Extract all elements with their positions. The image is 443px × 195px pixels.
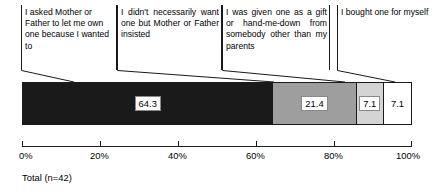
- x-axis-tick-label-100: 100%: [396, 150, 420, 162]
- stacked-bar-chart: I asked Mother or Father to let me own o…: [0, 0, 443, 195]
- callout-label-2: I didn't necessarily want one but Mother…: [121, 7, 219, 41]
- x-axis-tick-100: [411, 141, 412, 146]
- bar-track: 64.3 21.4 7.1 7.1: [22, 82, 412, 125]
- x-axis-tick-60: [256, 141, 257, 146]
- bar-segment-4[interactable]: 7.1: [383, 83, 411, 124]
- x-axis-tick-80: [334, 141, 335, 146]
- x-axis-tick-label-0: 0%: [19, 150, 33, 162]
- bar-segment-value-1: 64.3: [135, 96, 161, 111]
- bar-segment-1[interactable]: 64.3: [23, 83, 272, 124]
- callout-box-2: I didn't necessarily want one but Mother…: [117, 5, 222, 70]
- bar-segment-value-2: 21.4: [301, 96, 327, 111]
- callout-label-1: I asked Mother or Father to let me own o…: [25, 7, 114, 52]
- x-axis-tick-40: [178, 141, 179, 146]
- x-axis-tick-0: [22, 141, 23, 146]
- bar-segment-value-3: 7.1: [359, 96, 380, 111]
- x-axis-tick-label-60: 60%: [246, 150, 265, 162]
- callout-label-3: I was given one as a gift or hand-me-dow…: [226, 7, 327, 52]
- bar-segment-2[interactable]: 21.4: [272, 83, 355, 124]
- callout-box-3: I was given one as a gift or hand-me-dow…: [222, 5, 330, 70]
- x-axis-line: [22, 146, 412, 147]
- callout-box-4: I bought one for myself: [337, 5, 432, 70]
- callout-label-4: I bought one for myself: [341, 7, 429, 18]
- callout-box-1: I asked Mother or Father to let me own o…: [21, 5, 117, 70]
- chart-caption: Total (n=42): [22, 172, 72, 184]
- x-axis-tick-label-80: 80%: [324, 150, 343, 162]
- x-axis-tick-label-20: 20%: [90, 150, 109, 162]
- x-axis-tick-20: [100, 141, 101, 146]
- x-axis-tick-label-40: 40%: [168, 150, 187, 162]
- bar-segment-value-4: 7.1: [387, 96, 408, 111]
- bar-segment-3[interactable]: 7.1: [356, 83, 384, 124]
